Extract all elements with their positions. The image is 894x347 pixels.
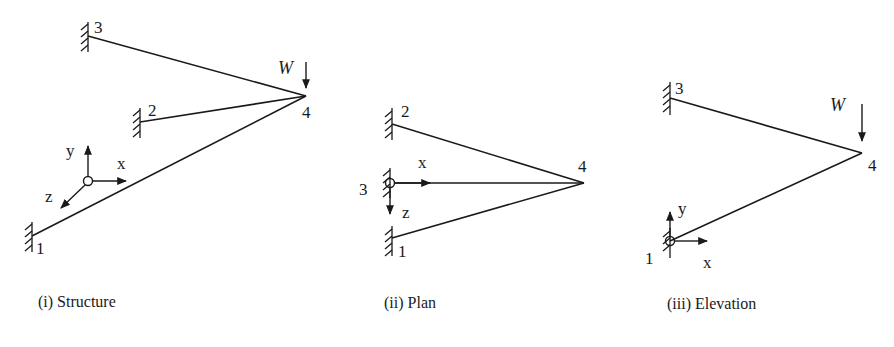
fixed-support-icon [385,108,392,140]
structure-panel: W 3 2 4 1 y x z (i) Structure [25,18,311,311]
axis-label-x: x [703,253,712,272]
node-label-3: 3 [359,180,368,199]
node-label-1: 1 [398,242,407,261]
node-label-1: 1 [645,249,654,268]
node-label-4: 4 [868,156,877,175]
load-label: W [830,95,847,115]
fixed-support-icon [81,22,88,52]
node-label-2: 2 [148,101,157,120]
node-label-1: 1 [36,239,45,258]
node-label-4: 4 [578,157,587,176]
fixed-support-icon [383,168,390,198]
node-label-3: 3 [675,79,684,98]
member-3-4 [88,36,306,96]
caption-plan: (ii) Plan [384,294,436,312]
axis-label-x: x [117,154,126,173]
plan-panel: x z 2 3 4 1 (ii) Plan [359,102,587,312]
node-label-4: 4 [302,103,311,122]
fixed-support-icon [663,82,670,115]
elevation-panel: W y x 3 4 1 (iii) Elevation [645,79,877,313]
caption-structure: (i) Structure [38,293,116,311]
axis-label-z: z [402,203,410,222]
caption-elevation: (iii) Elevation [667,295,756,313]
fixed-support-icon [25,222,32,252]
axis-label-z: z [45,187,53,206]
node-label-3: 3 [94,18,103,37]
fixed-support-icon [133,108,140,138]
load-label: W [278,58,295,78]
axis-label-x: x [418,153,427,172]
axis-label-y: y [66,141,75,160]
member-1-4 [392,183,584,238]
axis-label-y: y [678,199,687,218]
fixed-support-icon [385,226,392,256]
member-1-4 [670,153,862,241]
node-label-2: 2 [401,102,410,121]
